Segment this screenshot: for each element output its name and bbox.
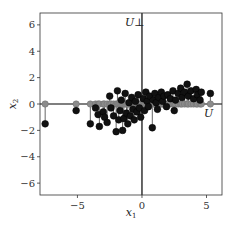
data-point (172, 97, 179, 104)
data-point (118, 97, 125, 104)
data-point (132, 98, 139, 105)
data-point (73, 107, 80, 114)
data-point (124, 120, 131, 127)
data-point (113, 128, 120, 135)
data-point (171, 107, 178, 114)
data-point (184, 81, 191, 88)
y-tick-label: 6 (29, 19, 35, 30)
y-tick-label: −6 (20, 178, 35, 189)
data-point (198, 89, 205, 96)
y-axis-label: x2 (6, 99, 20, 110)
data-point (87, 120, 94, 127)
y-tick-label: −2 (20, 125, 35, 136)
data-point (92, 105, 99, 112)
data-point (114, 87, 121, 94)
data-point (117, 107, 124, 114)
y-tick-label: 4 (29, 46, 35, 57)
data-point (106, 93, 113, 100)
data-point (149, 124, 156, 131)
data-point (163, 103, 170, 110)
u-annotation: U (204, 107, 214, 120)
data-point (96, 123, 103, 130)
projection-point (42, 101, 48, 107)
data-point (122, 90, 129, 97)
x-tick-label: 0 (139, 200, 145, 211)
y-tick-label: 0 (29, 99, 35, 110)
projection-scatter-chart: −505 −6−4−20246 x1 x2 U⊥ U (0, 0, 235, 229)
data-point (197, 97, 204, 104)
data-point (108, 105, 115, 112)
data-point (119, 127, 126, 134)
data-point (207, 90, 214, 97)
data-point (154, 106, 161, 113)
data-point (131, 116, 138, 123)
projection-point (73, 101, 79, 107)
x-tick-label: 5 (203, 200, 209, 211)
y-tick-label: 2 (29, 72, 35, 83)
x-axis-ticks: −505 (70, 195, 210, 211)
data-point (104, 119, 111, 126)
y-tick-label: −4 (20, 151, 35, 162)
x-axis-label: x1 (126, 206, 137, 220)
x-tick-label: −5 (70, 200, 85, 211)
data-point (42, 120, 49, 127)
data-point (145, 103, 152, 110)
data-point (137, 114, 144, 121)
y-axis-ticks: −6−4−20246 (20, 19, 40, 188)
u-perp-annotation: U⊥ (125, 16, 145, 29)
